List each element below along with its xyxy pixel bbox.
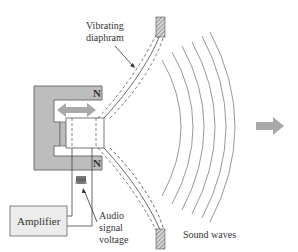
sound-wave-arc [192, 42, 215, 214]
amplifier-label: Amplifier [17, 215, 61, 227]
vibrating-diaphragm-label-line2: diaphram [86, 32, 124, 43]
audio-signal-label-line3: voltage [99, 234, 129, 245]
sound-waves [162, 32, 235, 222]
vibration-direction-arrow [57, 103, 96, 117]
sound-wave-arc [202, 36, 226, 218]
audio-signal-waveform-icon [76, 176, 86, 184]
sound-waves-label: Sound waves [183, 229, 236, 240]
vibrating-diaphragm-label-line1: Vibrating [86, 20, 124, 31]
sound-wave-arc [162, 60, 181, 196]
magnet-pole-bottom-label: N [93, 157, 101, 169]
diaphragm-upper-dash-a [98, 35, 156, 118]
loudspeaker-diagram: N N Amplifier Audio signal voltage Vibra… [0, 0, 298, 252]
speaker-frame-top [156, 17, 165, 37]
audio-signal-pointer-head [82, 188, 86, 193]
audio-signal-pointer [84, 190, 97, 222]
audio-signal-label-line2: signal [99, 222, 123, 233]
magnet-pole-top-label: N [93, 87, 101, 99]
speaker-frame-bottom [156, 229, 165, 249]
diaphragm-upper-solid [104, 35, 160, 118]
propagation-arrow [256, 117, 284, 135]
audio-signal-label-line1: Audio [99, 210, 124, 221]
diaphragm-pointer [115, 46, 133, 66]
sound-wave-arc [172, 52, 193, 204]
